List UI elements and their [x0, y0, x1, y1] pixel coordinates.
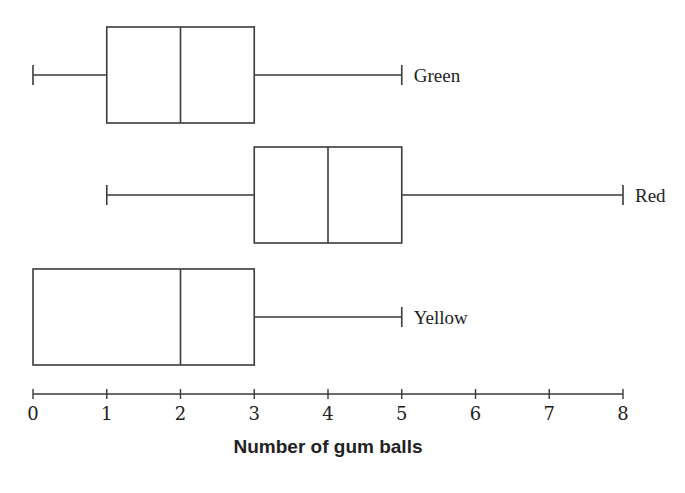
- x-tick-label: 0: [27, 403, 38, 424]
- x-axis-title: Number of gum balls: [234, 436, 423, 457]
- x-tick-label: 4: [322, 403, 333, 424]
- box-plot-green: Green: [33, 27, 461, 123]
- series-label: Red: [635, 185, 666, 206]
- x-tick-label: 6: [470, 403, 481, 424]
- x-tick-label: 5: [396, 403, 407, 424]
- x-tick-label: 2: [175, 403, 186, 424]
- x-tick-label: 7: [544, 403, 555, 424]
- box-plots: GreenRedYellow: [33, 27, 666, 365]
- x-axis: 012345678: [27, 389, 628, 424]
- box-plot-chart: GreenRedYellow 012345678 Number of gum b…: [0, 0, 685, 493]
- series-label: Yellow: [414, 307, 468, 328]
- series-label: Green: [414, 65, 461, 86]
- x-tick-label: 1: [101, 403, 112, 424]
- iqr-box: [33, 269, 254, 365]
- box-plot-red: Red: [107, 147, 666, 243]
- x-tick-label: 8: [617, 403, 628, 424]
- x-tick-label: 3: [249, 403, 260, 424]
- box-plot-yellow: Yellow: [33, 269, 468, 365]
